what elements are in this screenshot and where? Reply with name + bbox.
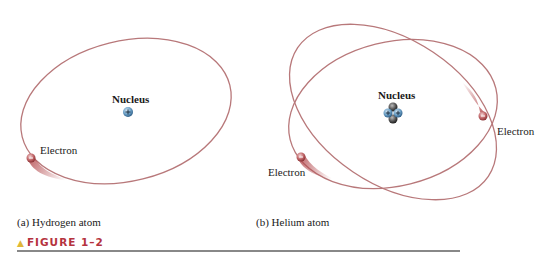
helium-caption: (b) Helium atom	[256, 216, 329, 228]
helium-electron-label-left: Electron	[268, 166, 305, 178]
helium-nucleus-label: Nucleus	[378, 89, 415, 101]
helium-atom	[257, 0, 528, 236]
hydrogen-atom	[5, 17, 247, 205]
figure-label: ▲FIGURE 1–2	[17, 236, 104, 248]
hydrogen-caption: (a) Hydrogen atom	[17, 216, 101, 228]
helium-nucleus	[384, 103, 403, 124]
hydrogen-nucleus-label: Nucleus	[112, 93, 149, 105]
helium-orbit-2	[273, 18, 514, 209]
triangle-marker-icon: ▲	[17, 238, 24, 248]
figure-rule	[17, 250, 460, 252]
hydrogen-electron-label: Electron	[40, 144, 77, 156]
figure-number: FIGURE 1–2	[27, 236, 104, 248]
helium-electron-label-right: Electron	[497, 125, 534, 137]
electron-trail	[462, 82, 486, 114]
